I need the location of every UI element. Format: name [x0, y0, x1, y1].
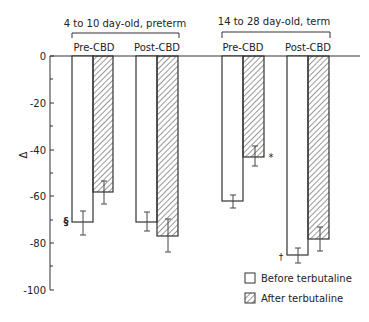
bar-preterm-pre-after — [93, 56, 113, 192]
bar-preterm-post-before — [136, 56, 157, 222]
legend-label-after: After terbutaline — [261, 293, 343, 304]
legend: Before terbutaline After terbutaline — [245, 273, 352, 304]
svg-text:-100: -100 — [23, 285, 46, 296]
bar-preterm-pre-before — [72, 56, 93, 222]
bar-term-post-after — [308, 56, 329, 239]
svg-text:-40: -40 — [30, 145, 46, 156]
svg-text:-80: -80 — [30, 238, 46, 249]
annotation-section: § — [64, 216, 69, 227]
annotation-asterisk: * — [269, 152, 274, 163]
legend-swatch-after — [245, 293, 255, 303]
y-axis-label: Δ — [18, 151, 29, 158]
bar-term-pre-after — [243, 56, 264, 157]
legend-label-before: Before terbutaline — [261, 273, 352, 284]
group-title-preterm: 4 to 10 day-old, preterm — [64, 18, 186, 29]
bar-chart: 4 to 10 day-old, preterm 14 to 28 day-ol… — [0, 0, 369, 322]
y-tick-labels: 0 -20 -40 -60 -80 -100 — [23, 51, 46, 296]
bars — [72, 56, 329, 255]
group-title-term: 14 to 28 day-old, term — [218, 16, 330, 27]
subgroup-label-preterm-pre: Pre-CBD — [73, 42, 114, 53]
legend-swatch-before — [245, 273, 255, 283]
group-bracket-term — [222, 32, 330, 38]
svg-text:-60: -60 — [30, 191, 46, 202]
group-bracket-preterm — [72, 33, 179, 38]
svg-text:0: 0 — [40, 51, 46, 62]
svg-text:-20: -20 — [30, 98, 46, 109]
bar-term-pre-before — [222, 56, 243, 201]
subgroup-label-term-pre: Pre-CBD — [222, 42, 263, 53]
bar-term-post-before — [287, 56, 308, 255]
annotation-dagger: † — [279, 252, 284, 262]
bar-preterm-post-after — [157, 56, 178, 236]
subgroup-label-preterm-post: Post-CBD — [134, 42, 180, 53]
subgroup-label-term-post: Post-CBD — [285, 42, 331, 53]
